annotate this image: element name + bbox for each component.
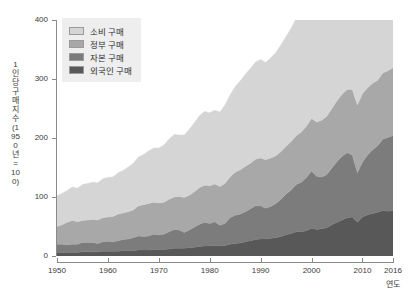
y-axis-line	[56, 20, 57, 256]
chart-figure: 1인당 구매 지수(1950년 = 100) 01002003004001950…	[0, 0, 418, 308]
y-tick-label: 0	[26, 251, 48, 260]
x-tick-label: 2016	[378, 266, 408, 275]
y-tick	[52, 79, 56, 80]
x-tick-label: 1950	[42, 266, 72, 275]
legend-item: 소비 구매	[69, 24, 132, 37]
y-tick-label: 300	[26, 74, 48, 83]
x-tick	[57, 258, 58, 263]
legend-item-label: 정부 구매	[90, 38, 124, 50]
x-tick-label: 1970	[144, 266, 174, 275]
x-tick	[261, 258, 262, 263]
x-tick	[210, 258, 211, 263]
y-tick	[52, 138, 56, 139]
legend-item: 외국인 구매	[69, 63, 132, 76]
y-tick-label: 100	[26, 192, 48, 201]
x-tick-label: 2010	[347, 266, 377, 275]
legend-item: 자본 구매	[69, 50, 132, 63]
legend-item-label: 외국인 구매	[90, 64, 132, 76]
x-tick-label: 2000	[297, 266, 327, 275]
y-axis-title: 1인당 구매 지수(1950년 = 100)	[10, 60, 30, 240]
legend-swatch-icon	[69, 53, 84, 61]
x-tick	[393, 258, 394, 263]
legend-item: 정부 구매	[69, 37, 132, 50]
y-tick	[52, 197, 56, 198]
legend-item-label: 소비 구매	[90, 25, 124, 37]
x-tick	[312, 258, 313, 263]
legend-item-label: 자본 구매	[90, 51, 124, 63]
y-tick	[52, 256, 56, 257]
x-tick	[108, 258, 109, 263]
chart-legend: 소비 구매정부 구매자본 구매외국인 구매	[62, 18, 141, 82]
legend-swatch-icon	[69, 40, 84, 48]
y-tick-label: 400	[26, 15, 48, 24]
x-tick	[362, 258, 363, 263]
y-tick-label: 200	[26, 133, 48, 142]
legend-swatch-icon	[69, 66, 84, 74]
x-tick-label: 1980	[195, 266, 225, 275]
x-tick-label: 1990	[246, 266, 276, 275]
x-tick	[159, 258, 160, 263]
x-axis-title: 연도	[378, 278, 408, 289]
y-axis-title-text: 1인당 구매 지수(1950년 = 100)	[10, 60, 21, 186]
y-tick	[52, 20, 56, 21]
x-tick-label: 1960	[93, 266, 123, 275]
legend-swatch-icon	[69, 27, 84, 35]
